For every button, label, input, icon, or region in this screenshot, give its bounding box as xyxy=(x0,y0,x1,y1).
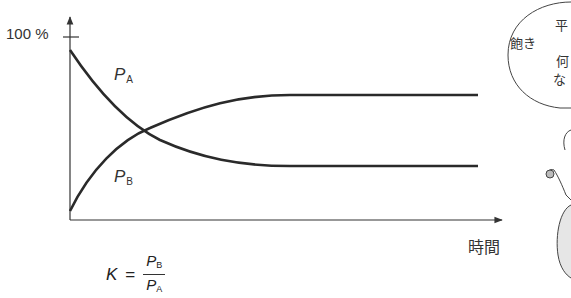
bubble-line-1: 平 xyxy=(555,17,568,34)
curve-pb xyxy=(70,95,478,211)
bubble-line-3: 何 xyxy=(556,53,569,70)
y-tick-label: 100 % xyxy=(6,25,49,42)
numerator-main: P xyxy=(146,252,156,269)
label-pb-main: P xyxy=(114,167,125,186)
label-pa-main: P xyxy=(114,65,125,84)
formula-fraction: PB PA xyxy=(143,253,165,297)
equilibrium-formula: K = PB PA xyxy=(106,253,165,297)
formula-k: K xyxy=(106,265,117,285)
x-axis-label: 時間 xyxy=(468,234,500,258)
numerator-sub: B xyxy=(156,260,162,270)
label-pa: PA xyxy=(114,65,133,85)
label-pb: PB xyxy=(114,167,133,187)
formula-denominator: PA xyxy=(146,275,162,297)
denominator-main: P xyxy=(146,276,156,293)
bubble-line-2: 飽き xyxy=(510,35,536,52)
cartoon-character xyxy=(546,130,571,278)
label-pb-sub: B xyxy=(126,176,133,187)
formula-numerator: PB xyxy=(143,253,165,275)
denominator-sub: A xyxy=(156,284,162,294)
formula-equals: = xyxy=(125,265,135,285)
bubble-line-4: な xyxy=(553,71,566,88)
label-pa-sub: A xyxy=(126,74,133,85)
